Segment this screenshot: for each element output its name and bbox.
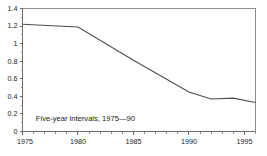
y-tick-label-4: 0.8	[8, 57, 18, 66]
interval-note: Five-year intervals, 1975—90	[36, 114, 135, 123]
y-tick-label-0: 0	[14, 127, 18, 136]
x-tick-label-3: 1990	[181, 137, 197, 146]
chart-frame	[23, 9, 256, 132]
chart-annotations: Five-year intervals, 1975—90	[36, 114, 135, 123]
y-tick-label-6: 1.2	[8, 21, 18, 30]
y-axis-tick-labels: 00.20.40.60.811.21.4	[8, 4, 18, 136]
chart-plot-area: 00.20.40.60.811.21.4 1975198019851990199…	[0, 0, 267, 156]
x-tick-label-1: 1980	[70, 137, 86, 146]
data-series-line-1	[23, 24, 256, 102]
x-tick-label-2: 1985	[125, 137, 141, 146]
y-tick-label-7: 1.4	[8, 4, 18, 13]
data-series-group	[23, 24, 256, 102]
y-tick-label-3: 0.6	[8, 74, 18, 83]
x-tick-label-4: 1995	[236, 137, 252, 146]
x-axis-tick-labels: 19751980198519901995	[17, 137, 252, 146]
chart-figure: 00.20.40.60.811.21.4 1975198019851990199…	[0, 0, 267, 156]
y-tick-label-5: 1	[14, 39, 18, 48]
y-tick-label-1: 0.2	[8, 109, 18, 118]
x-tick-label-0: 1975	[17, 137, 33, 146]
y-tick-label-2: 0.4	[8, 92, 18, 101]
